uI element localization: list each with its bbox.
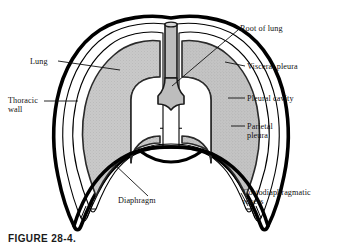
figure-container: Lung Thoracic wall Diaphragm Root of lun…	[0, 0, 342, 249]
label-diaphragm: Diaphragm	[118, 196, 156, 205]
label-thoracic-wall: Thoracic wall	[8, 96, 38, 115]
label-parietal-pleura: Parietal pleura	[247, 122, 273, 141]
thorax-diagram	[0, 0, 342, 249]
leader-diaphragm	[113, 163, 148, 196]
figure-caption: FIGURE 28-4.	[8, 233, 76, 244]
label-visceral-pleura: Visceral pleura	[247, 62, 298, 71]
label-costodiaphragmatic-recess: Costodiaphragmatic recess	[243, 188, 311, 207]
label-lung: Lung	[30, 57, 48, 66]
label-pleural-cavity: Pleural cavity	[247, 94, 294, 103]
label-root-of-lung: Root of lung	[240, 24, 283, 33]
